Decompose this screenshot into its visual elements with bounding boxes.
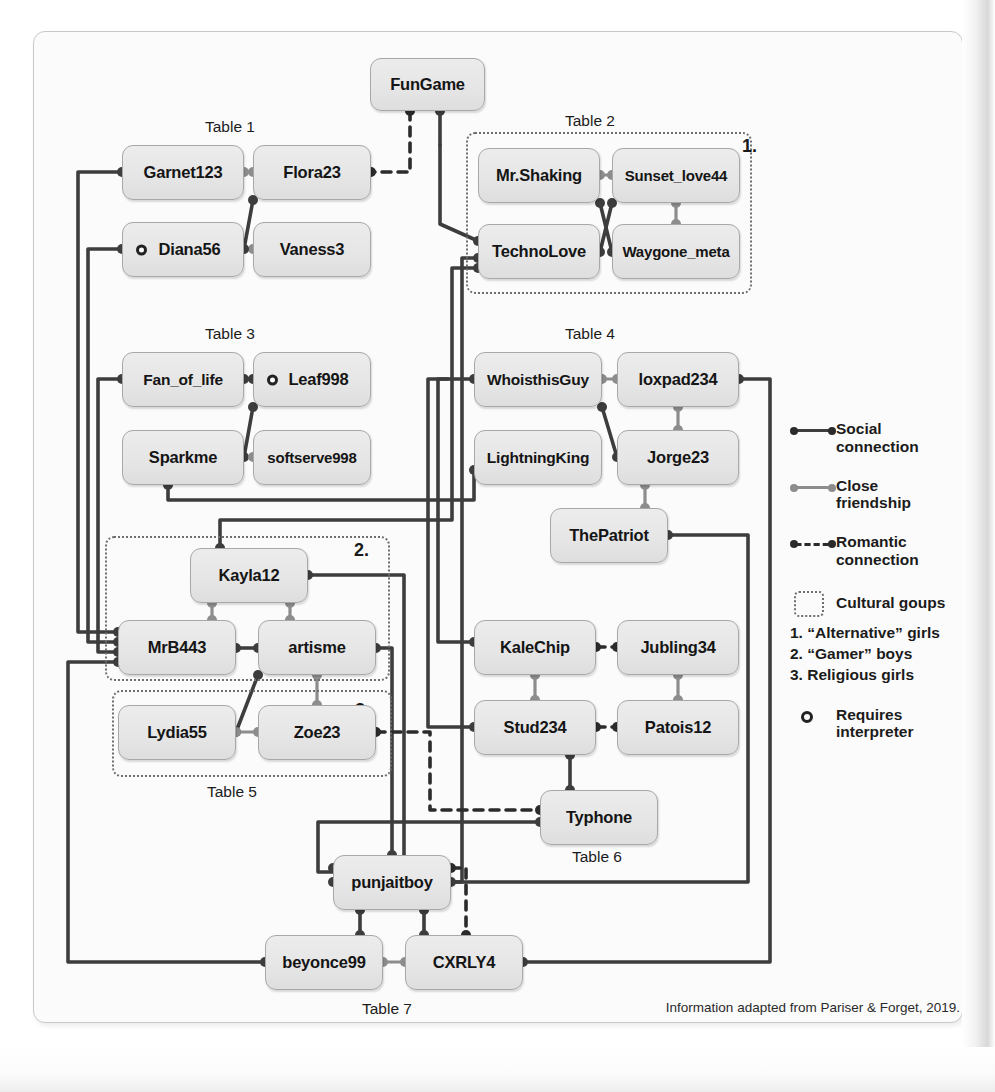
legend-label: Requiresinterpreter xyxy=(836,706,914,742)
cultural-group-note-2: 2. “Gamer” boys xyxy=(790,644,955,665)
table-label-3: Table 3 xyxy=(205,325,255,343)
node-stud234[interactable]: Stud234 xyxy=(474,700,596,755)
legend-item-social: Socialconnection xyxy=(790,420,955,456)
legend-item-close-friendship: Closefriendship xyxy=(790,477,955,513)
node-artisme[interactable]: artisme xyxy=(258,620,376,675)
node-label: Sunset_love44 xyxy=(625,167,727,184)
cultural-group-1-number: 1. xyxy=(742,136,757,157)
node-label: Leaf998 xyxy=(275,370,348,389)
node-label: Mr.Shaking xyxy=(496,166,582,185)
legend: Socialconnection Closefriendship Romanti… xyxy=(790,420,955,762)
node-label: Vaness3 xyxy=(280,240,345,259)
node-jorge23[interactable]: Jorge23 xyxy=(617,430,739,485)
node-label: softserve998 xyxy=(267,449,356,466)
scan-edge-right xyxy=(962,0,995,1092)
edge-fungame-flora23 xyxy=(371,111,410,172)
table-label-7: Table 7 xyxy=(362,1000,412,1018)
node-label: beyonce99 xyxy=(282,953,366,972)
legend-item-romantic: Romanticconnection xyxy=(790,533,955,569)
node-leaf998[interactable]: Leaf998 xyxy=(253,352,371,407)
edge-whoisthisguy-kalechip xyxy=(438,379,474,642)
node-fan-of-life[interactable]: Fan_of_life xyxy=(122,352,244,407)
node-label: Stud234 xyxy=(504,718,567,737)
table-label-4: Table 4 xyxy=(565,325,615,343)
node-loxpad234[interactable]: loxpad234 xyxy=(617,352,739,407)
requires-interpreter-icon xyxy=(790,707,836,729)
social-connection-icon xyxy=(790,421,836,441)
node-label: Flora23 xyxy=(283,163,340,182)
node-label: Garnet123 xyxy=(144,163,223,182)
node-technolove[interactable]: TechnoLove xyxy=(478,224,600,279)
node-label: Patois12 xyxy=(645,718,711,737)
node-label: TechnoLove xyxy=(492,242,586,261)
edge-whoisthisguy-jorge23 xyxy=(602,407,617,457)
node-label: Diana56 xyxy=(146,240,221,259)
cultural-group-note-1: 1. “Alternative” girls xyxy=(790,623,955,644)
legend-label: Socialconnection xyxy=(836,420,919,456)
node-typhone[interactable]: Typhone xyxy=(540,790,658,845)
node-label: WhoisthisGuy xyxy=(487,371,589,389)
edge-leaf998-sparkme xyxy=(244,407,253,457)
requires-interpreter-icon xyxy=(267,374,278,385)
node-mrshaking[interactable]: Mr.Shaking xyxy=(478,148,600,203)
node-label: ThePatriot xyxy=(569,526,649,545)
node-lydia55[interactable]: Lydia55 xyxy=(118,705,236,760)
node-label: Lydia55 xyxy=(147,723,206,742)
node-label: loxpad234 xyxy=(639,370,718,389)
node-label: Kayla12 xyxy=(219,566,280,585)
table-label-5: Table 5 xyxy=(207,783,257,801)
node-diana56[interactable]: Diana56 xyxy=(122,222,244,277)
node-thepatriot[interactable]: ThePatriot xyxy=(550,508,668,563)
node-label: CXRLY4 xyxy=(433,953,495,972)
node-zoe23[interactable]: Zoe23 xyxy=(258,705,376,760)
legend-label: Romanticconnection xyxy=(836,533,919,569)
node-label: Sparkme xyxy=(149,448,217,467)
node-kayla12[interactable]: Kayla12 xyxy=(190,548,308,603)
node-waygone-meta[interactable]: Waygone_meta xyxy=(612,224,740,279)
node-label: Zoe23 xyxy=(294,723,341,742)
close-friendship-icon xyxy=(790,478,836,498)
romantic-connection-icon xyxy=(790,534,836,554)
table-label-6: Table 6 xyxy=(572,848,622,866)
cultural-group-icon xyxy=(790,591,836,619)
node-lightningking[interactable]: LightningKing xyxy=(474,430,602,485)
legend-label: Cultural goups xyxy=(836,590,945,612)
legend-item-requires-interpreter: Requiresinterpreter xyxy=(790,706,955,742)
node-label: MrB443 xyxy=(148,638,206,657)
node-label: FunGame xyxy=(390,75,465,94)
node-label: LightningKing xyxy=(487,449,589,467)
node-sparkme[interactable]: Sparkme xyxy=(122,430,244,485)
node-label: punjaitboy xyxy=(351,873,432,892)
node-cxrly4[interactable]: CXRLY4 xyxy=(405,935,523,990)
node-label: artisme xyxy=(288,638,345,657)
node-punjaitboy[interactable]: punjaitboy xyxy=(333,855,451,910)
node-whoisthisguy[interactable]: WhoisthisGuy xyxy=(474,352,602,407)
legend-item-cultural-groups: Cultural goups xyxy=(790,590,955,619)
table-label-2: Table 2 xyxy=(565,112,615,130)
node-flora23[interactable]: Flora23 xyxy=(253,145,371,200)
cultural-group-note-3: 3. Religious girls xyxy=(790,665,955,686)
source-note: Information adapted from Pariser & Forge… xyxy=(600,1000,960,1015)
cultural-group-2-number: 2. xyxy=(354,540,369,561)
legend-label: Closefriendship xyxy=(836,477,911,513)
node-label: Fan_of_life xyxy=(143,371,223,389)
node-patois12[interactable]: Patois12 xyxy=(617,700,739,755)
node-mrb443[interactable]: MrB443 xyxy=(118,620,236,675)
node-label: Jorge23 xyxy=(647,448,709,467)
node-label: KaleChip xyxy=(500,638,570,657)
node-fungame[interactable]: FunGame xyxy=(370,58,485,111)
node-sunset-love44[interactable]: Sunset_love44 xyxy=(612,148,740,203)
node-beyonce99[interactable]: beyonce99 xyxy=(265,935,383,990)
node-vaness3[interactable]: Vaness3 xyxy=(253,222,371,277)
table-label-1: Table 1 xyxy=(205,118,255,136)
node-softserve998[interactable]: softserve998 xyxy=(253,430,371,485)
edge-diana56-flora23 xyxy=(244,200,253,249)
scan-edge-bottom xyxy=(0,1047,995,1092)
requires-interpreter-icon xyxy=(136,244,147,255)
node-label: Typhone xyxy=(566,808,632,827)
node-garnet123[interactable]: Garnet123 xyxy=(122,145,244,200)
node-jubling34[interactable]: Jubling34 xyxy=(617,620,739,675)
node-label: Jubling34 xyxy=(640,638,715,657)
node-kalechip[interactable]: KaleChip xyxy=(474,620,596,675)
cultural-group-notes: 1. “Alternative” girls 2. “Gamer” boys 3… xyxy=(790,623,955,686)
